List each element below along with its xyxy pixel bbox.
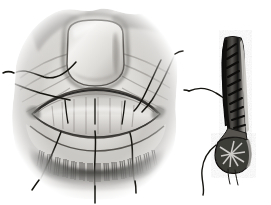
anatomical-figure bbox=[0, 0, 271, 205]
